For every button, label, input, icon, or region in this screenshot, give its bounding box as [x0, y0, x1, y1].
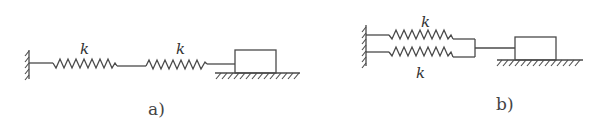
diagram-a: k k a) [25, 40, 300, 119]
mass-block [235, 50, 276, 73]
spring-icon [53, 59, 117, 68]
spring-label: k [416, 64, 425, 82]
spring-label: k [80, 40, 89, 58]
spring-label: k [421, 13, 430, 31]
caption-b: b) [496, 94, 514, 114]
mass-block [515, 37, 556, 60]
ground-icon [497, 60, 583, 66]
spring-icon [146, 60, 207, 69]
spring-mass-diagrams: k k a) [0, 0, 591, 130]
fixed-wall-icon [25, 50, 29, 80]
fixed-wall-icon [362, 25, 366, 68]
spring-label: k [176, 40, 185, 58]
spring-icon [389, 47, 453, 57]
ground-icon [215, 73, 300, 79]
spring-icon [389, 30, 453, 39]
caption-a: a) [148, 99, 165, 119]
diagram-b: k k b) [362, 13, 583, 114]
